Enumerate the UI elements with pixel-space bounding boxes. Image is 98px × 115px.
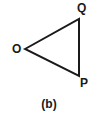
figure-caption: (b) xyxy=(0,97,98,111)
vertex-label-q: Q xyxy=(77,2,86,14)
vertex-label-p: P xyxy=(80,77,88,89)
figure-container: O Q P (b) xyxy=(0,0,98,115)
triangle-outline xyxy=(25,19,79,76)
vertex-label-o: O xyxy=(12,43,21,55)
triangle-diagram: O Q P xyxy=(0,0,98,94)
